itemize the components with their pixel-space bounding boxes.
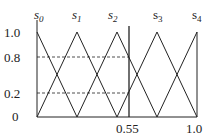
y-tick-0.2: 0.2 <box>4 86 20 101</box>
label-s4: s4 <box>192 7 202 24</box>
label-s0: s0 <box>34 7 44 24</box>
y-tick-0.8: 0.8 <box>4 50 20 65</box>
label-s2: s2 <box>108 7 118 24</box>
y-tick-0: 0 <box>12 109 19 124</box>
fuzzy-membership-chart: s0 s1 s2 s3 s4 1.0 0.8 0.2 0 0.55 1.0 <box>0 0 210 138</box>
x-tick-0.55: 0.55 <box>116 121 139 136</box>
label-s3: s3 <box>153 7 163 24</box>
y-tick-1.0: 1.0 <box>4 25 20 40</box>
x-tick-1.0: 1.0 <box>186 121 202 136</box>
membership-s1 <box>37 32 117 117</box>
label-s1: s1 <box>72 7 82 24</box>
membership-s2 <box>77 32 157 117</box>
